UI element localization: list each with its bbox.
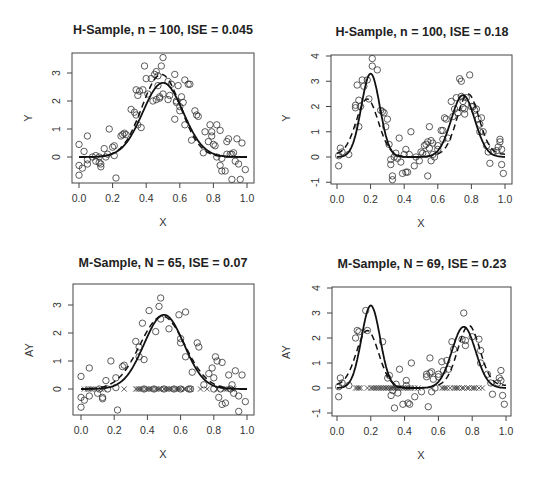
data-point [99, 396, 105, 402]
x-tick-label: 0.4 [140, 424, 155, 436]
data-point [411, 163, 417, 169]
panel-title: M-Sample, N = 65, ISE = 0.07 [79, 256, 248, 270]
data-point [103, 377, 109, 383]
true-curve [79, 83, 247, 157]
y-tick-label: 1 [310, 360, 322, 366]
data-point [498, 367, 504, 373]
panel-h-sample-unimodal: H-Sample, n = 100, ISE = 0.045 X Y 0.00.… [22, 23, 254, 228]
data-point [202, 129, 208, 135]
data-point [209, 365, 215, 371]
x-tick-label: 1.0 [499, 425, 514, 437]
data-point [109, 144, 115, 150]
estimated-curve [79, 74, 247, 157]
data-point [487, 160, 493, 166]
y-tick-label: 0 [309, 154, 321, 160]
data-point [141, 386, 147, 392]
panel-title: M-Sample, N = 69, ISE = 0.23 [338, 257, 507, 271]
data-point [354, 82, 360, 88]
data-point [146, 307, 152, 313]
data-point [408, 360, 414, 366]
x-tick-label: 0.2 [363, 425, 378, 437]
y-tick-label: 3 [51, 302, 63, 308]
data-point [141, 356, 147, 362]
y-tick-label: 0 [50, 154, 62, 160]
x-axis-label: X [159, 448, 167, 460]
data-point [374, 67, 380, 73]
data-point [395, 390, 401, 396]
data-point [207, 122, 213, 128]
data-point [389, 173, 395, 179]
data-point [212, 143, 218, 149]
x-tick-label: 0.6 [431, 425, 446, 437]
data-point [384, 116, 390, 122]
x-tick-label: 0.4 [139, 192, 154, 204]
data-point [398, 159, 404, 165]
data-point [229, 176, 235, 182]
data-point [499, 392, 505, 398]
x-tick-label: 1.0 [240, 192, 255, 204]
data-point [356, 329, 362, 335]
x-tick-label: 1.0 [240, 424, 255, 436]
data-point [408, 129, 414, 135]
data-point [76, 172, 82, 178]
x-tick-label: 0.2 [363, 193, 378, 205]
x-tick-label: 0.8 [206, 192, 221, 204]
data-point [337, 145, 343, 151]
data-point [114, 407, 120, 413]
data-point [160, 54, 166, 60]
data-point [106, 126, 112, 132]
x-tick-label: 0.6 [172, 192, 187, 204]
y-tick-label: 3 [309, 78, 321, 84]
data-point [426, 124, 432, 130]
data-point [212, 354, 218, 360]
data-point [158, 63, 164, 69]
data-point [84, 161, 90, 167]
data-point [226, 372, 232, 378]
x-tick-label: 0.6 [173, 424, 188, 436]
data-point [501, 401, 507, 407]
data-point [99, 394, 105, 400]
data-point [335, 163, 341, 169]
data-point [498, 161, 504, 167]
data-point [195, 113, 201, 119]
data-point [427, 355, 433, 361]
data-point [489, 391, 495, 397]
data-point [210, 141, 216, 147]
y-tick-label: 1 [309, 129, 321, 135]
estimated-curve [81, 316, 247, 389]
data-point [242, 398, 248, 404]
panel-title: H-Sample, n = 100, ISE = 0.045 [73, 23, 253, 37]
data-point [211, 375, 217, 381]
data-point [194, 340, 200, 346]
y-tick-label: 2 [310, 335, 322, 341]
data-point [157, 295, 163, 301]
y-tick-label: 2 [50, 98, 62, 104]
chart-figure: H-Sample, n = 100, ISE = 0.045 X Y 0.00.… [0, 0, 541, 484]
data-point [167, 92, 173, 98]
y-tick-label: -1 [310, 408, 322, 417]
data-point [78, 373, 84, 379]
data-point [425, 404, 431, 410]
data-point [396, 366, 402, 372]
data-point [461, 310, 467, 316]
y-tick-label: 4 [310, 285, 322, 291]
x-tick-label: 0.2 [107, 424, 122, 436]
data-point [467, 72, 473, 78]
data-point [236, 393, 242, 399]
x-tick-label: 0.0 [330, 425, 345, 437]
data-point [216, 394, 222, 400]
data-point [86, 393, 92, 399]
data-point [151, 386, 157, 392]
y-axis-label: AY [280, 344, 292, 359]
data-point [440, 127, 446, 133]
data-point [335, 394, 341, 400]
data-point [165, 96, 171, 102]
panel-m-sample-bimodal: M-Sample, N = 69, ISE = 0.23 X AY 0.00.2… [280, 257, 513, 461]
y-tick-label: -1 [309, 177, 321, 186]
data-point [172, 116, 178, 122]
x-tick-label: 0.8 [206, 424, 221, 436]
plot-frame [72, 53, 254, 183]
x-axis-label: X [417, 217, 425, 229]
data-point [403, 377, 409, 383]
data-point [175, 82, 181, 88]
